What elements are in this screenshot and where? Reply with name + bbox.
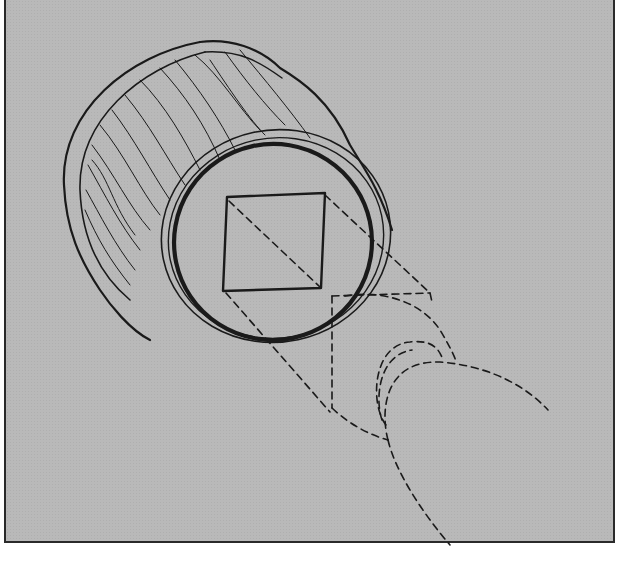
dowel-illustration: [0, 0, 623, 580]
front-face-rings: [141, 108, 410, 363]
construction-lines: [226, 195, 548, 545]
wood-grain: [85, 50, 310, 285]
